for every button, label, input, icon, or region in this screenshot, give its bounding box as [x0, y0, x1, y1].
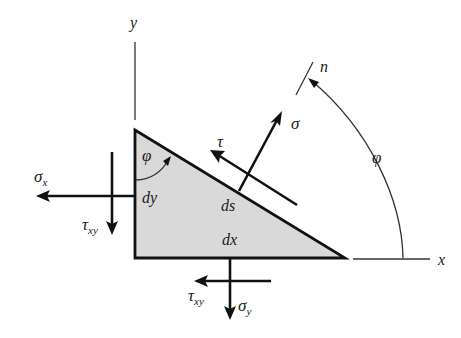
tau-shear-label: τ: [217, 132, 224, 151]
n-axis-line: [296, 62, 313, 95]
x-axis-label: x: [437, 251, 445, 268]
dx-label: dx: [222, 231, 237, 248]
rotation-angle-label: φ: [372, 148, 381, 167]
sigma-x-label: σx: [34, 167, 47, 188]
sigma-normal-label: σ: [291, 114, 300, 133]
dy-label: dy: [142, 189, 158, 207]
n-axis-label: n: [320, 58, 328, 75]
tau-xy-left-label: τxy: [82, 215, 98, 236]
triangular-element: [135, 130, 345, 258]
interior-angle-label: φ: [142, 146, 151, 165]
y-axis-label: y: [128, 14, 138, 32]
ds-label: ds: [221, 197, 235, 214]
rotation-arc: [312, 81, 403, 258]
stress-diagram: y x n φ φ dy dx ds σx τxy σy τxy σ τ: [0, 0, 461, 338]
sigma-y-label: σy: [238, 296, 251, 317]
tau-xy-bottom-label: τxy: [188, 286, 204, 307]
